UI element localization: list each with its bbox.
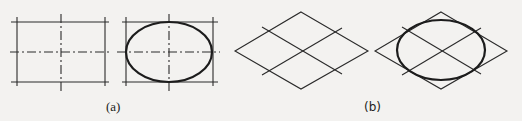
midline-ascending (402, 28, 481, 75)
panel-b-rhombus (235, 12, 368, 89)
panel-b-rhombus-ellipse (375, 12, 507, 89)
panel-a-label: (a) (106, 99, 120, 114)
panel-a-rectangle-ellipse (117, 14, 220, 91)
panel-a-rectangle (10, 14, 112, 91)
diagram-svg: (a) (b) (0, 0, 522, 121)
panel-b-label: (b) (364, 100, 381, 114)
midline-descending (262, 27, 342, 74)
midline-descending (402, 27, 481, 74)
midline-ascending (262, 28, 342, 75)
diagram-canvas: (a) (b) (0, 0, 522, 121)
